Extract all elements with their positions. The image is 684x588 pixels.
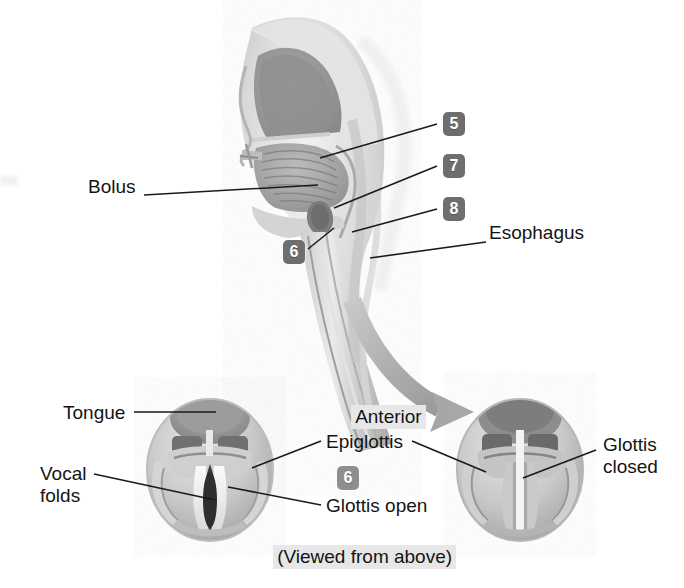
callout-chip-6-larynx[interactable]: 6 xyxy=(337,466,359,490)
label-glottis-closed-line1: Glottis xyxy=(603,434,657,456)
label-vocal-folds-line1: Vocal xyxy=(40,463,86,485)
label-tongue: Tongue xyxy=(63,402,125,424)
caption-viewed-from-above-text: (Viewed from above) xyxy=(273,545,456,569)
label-glottis-closed-line2: closed xyxy=(603,456,658,478)
label-bolus: Bolus xyxy=(88,176,136,198)
label-epiglottis: Epiglottis xyxy=(326,431,403,453)
label-vocal-folds-line2: folds xyxy=(40,485,80,507)
callout-chip-8[interactable]: 8 xyxy=(443,197,465,221)
label-anterior-text: Anterior xyxy=(351,405,426,429)
label-glottis-open: Glottis open xyxy=(326,495,427,517)
callout-chip-6-sagittal[interactable]: 6 xyxy=(283,240,305,264)
callout-chip-5[interactable]: 5 xyxy=(443,112,465,136)
scan-artifact xyxy=(0,176,18,185)
label-esophagus: Esophagus xyxy=(489,222,584,244)
anatomy-figure: Bolus Esophagus 5 7 8 6 Anterior Tongue … xyxy=(0,0,684,588)
larynx-closed-illustration xyxy=(457,388,583,541)
caption-viewed-from-above: (Viewed from above) xyxy=(252,524,456,588)
callout-chip-7[interactable]: 7 xyxy=(443,154,465,178)
